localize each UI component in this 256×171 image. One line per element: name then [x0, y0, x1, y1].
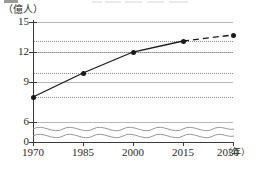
data-point-2000[interactable]: [131, 50, 136, 55]
data-point-1970[interactable]: [31, 95, 36, 100]
series-dashed-projection: [183, 35, 233, 41]
series-solid-segment: [33, 41, 183, 97]
plot-area: 15 12 9 6 0 1970 1985 2000 2015 2030 （年）: [0, 0, 256, 171]
data-point-1985[interactable]: [81, 71, 86, 76]
data-point-2030[interactable]: [231, 33, 236, 38]
figure-canvas: （億人） 15 12 9 6 0: [0, 0, 256, 171]
data-point-2015[interactable]: [181, 39, 186, 44]
data-series-line: [0, 0, 256, 171]
